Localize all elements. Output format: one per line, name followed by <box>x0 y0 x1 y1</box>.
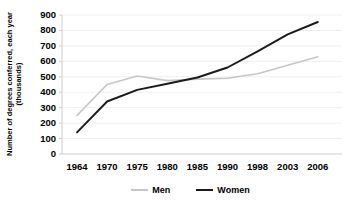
y-axis-title-line2: (thousands) <box>14 0 23 170</box>
legend-item-women: Women <box>196 185 249 195</box>
y-tick-label: 900 <box>28 10 56 20</box>
legend-label-women: Women <box>217 185 249 195</box>
y-tick-label: 100 <box>28 134 56 144</box>
y-tick-label: 500 <box>28 72 56 82</box>
legend-item-men: Men <box>131 185 170 195</box>
y-tick-label: 0 <box>28 149 56 159</box>
y-tick-label: 800 <box>28 25 56 35</box>
x-tick-label: 2006 <box>300 162 336 172</box>
y-tick-label: 700 <box>28 41 56 51</box>
men-line <box>77 57 318 116</box>
y-tick-label: 600 <box>28 56 56 66</box>
men-line-swatch-icon <box>131 189 148 191</box>
y-tick-label: 400 <box>28 87 56 97</box>
line-chart-figure: Number of degrees conferred, each year (… <box>0 0 349 201</box>
y-tick-label: 300 <box>28 103 56 113</box>
y-axis-title-line1: Number of degrees conferred, each year <box>5 0 14 170</box>
legend-label-men: Men <box>152 185 170 195</box>
y-tick-label: 200 <box>28 118 56 128</box>
y-axis-title: Number of degrees conferred, each year (… <box>5 0 24 170</box>
women-line-swatch-icon <box>196 189 213 191</box>
legend: Men Women <box>0 185 349 195</box>
